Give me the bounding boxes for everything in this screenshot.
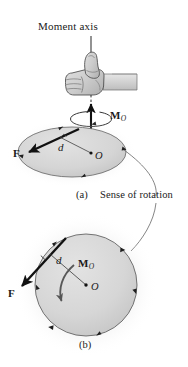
origin-point-a (89, 151, 92, 154)
force-label-b: F (8, 288, 15, 299)
moment-vector-label-a: MO (110, 110, 126, 122)
figure-graphics (0, 0, 188, 367)
moment-subscript-b: O (89, 262, 94, 271)
moment-axis-figure: Moment axis MO F d O (a) Sense of rotati… (0, 0, 188, 367)
disk-ellipse-a (18, 127, 126, 177)
thumbs-up-hand-icon (66, 52, 138, 95)
distance-label-b: d (56, 255, 62, 266)
panel-b-caption: (b) (79, 340, 91, 351)
origin-label-b: O (91, 282, 99, 293)
moment-vector-letter-a: M (110, 109, 120, 121)
origin-point-b (84, 283, 87, 286)
origin-label-a: O (95, 151, 103, 162)
moment-letter-b: M (78, 257, 88, 269)
moment-label-b: MO (78, 258, 94, 270)
sense-of-rotation-label: Sense of rotation (100, 190, 173, 201)
moment-axis-title: Moment axis (38, 21, 98, 32)
force-label-a: F (13, 148, 20, 159)
moment-vector-subscript-a: O (121, 114, 126, 123)
distance-label-a: d (58, 142, 64, 153)
panel-a-caption: (a) (76, 190, 88, 201)
